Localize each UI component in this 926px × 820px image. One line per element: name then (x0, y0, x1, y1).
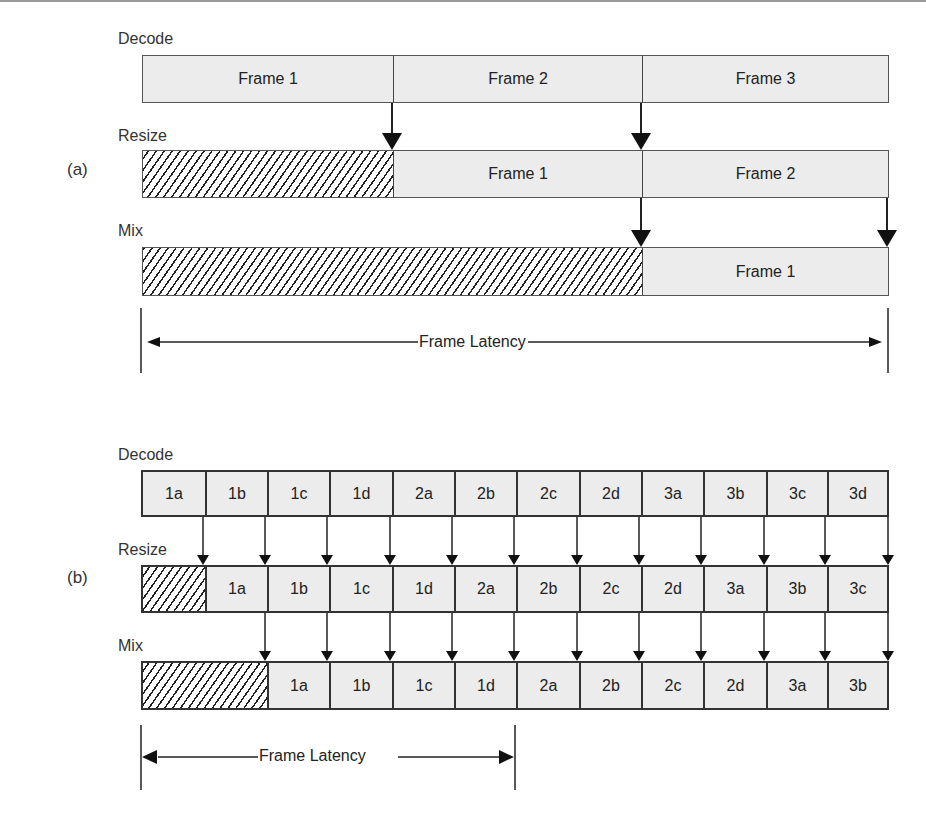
arrows-overlay (0, 0, 926, 820)
a-latency-dimension (141, 308, 888, 373)
b-handoff-arrows (197, 517, 894, 661)
a-handoff-arrows (382, 103, 897, 247)
b-latency-dimension (141, 725, 515, 790)
